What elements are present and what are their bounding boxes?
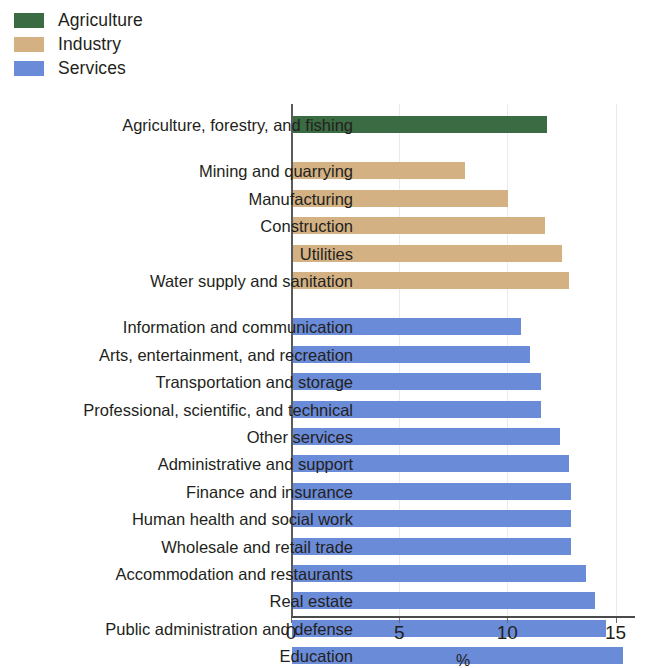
chart-legend: AgricultureIndustryServices — [14, 8, 254, 80]
category-label: Wholesale and retail trade — [63, 539, 353, 556]
legend-item-agriculture: Agriculture — [14, 8, 254, 32]
category-label: Mining and quarrying — [63, 163, 353, 180]
x-tick-label: 15 — [605, 622, 626, 644]
category-label: Agriculture, forestry, and fishing — [63, 117, 353, 134]
x-tick-label: 10 — [497, 622, 518, 644]
category-label: Other services — [63, 429, 353, 446]
category-label: Education — [63, 648, 353, 665]
legend-label: Agriculture — [58, 10, 143, 31]
category-label: Water supply and sanitation — [63, 273, 353, 290]
legend-item-services: Services — [14, 56, 254, 80]
legend-swatch-services — [14, 61, 44, 76]
legend-item-industry: Industry — [14, 32, 254, 56]
category-label: Arts, entertainment, and recreation — [63, 347, 353, 364]
gridline-15 — [616, 104, 617, 618]
category-label: Utilities — [63, 246, 353, 263]
category-label: Administrative and support — [63, 456, 353, 473]
legend-swatch-industry — [14, 37, 44, 52]
category-label: Manufacturing — [63, 191, 353, 208]
x-tick-label: 5 — [394, 622, 405, 644]
category-label: Construction — [63, 218, 353, 235]
category-label: Information and communication — [63, 319, 353, 336]
category-label: Real estate — [63, 593, 353, 610]
x-axis-line — [291, 616, 635, 618]
category-label: Public administration and defense — [63, 621, 353, 638]
category-label: Professional, scientific, and technical — [63, 402, 353, 419]
category-label: Accommodation and restaurants — [63, 566, 353, 583]
legend-swatch-agriculture — [14, 13, 44, 28]
legend-label: Industry — [58, 34, 121, 55]
category-label: Human health and social work — [63, 511, 353, 528]
x-axis-label: % — [456, 652, 470, 668]
category-label: Transportation and storage — [63, 374, 353, 391]
category-label: Finance and insurance — [63, 484, 353, 501]
legend-label: Services — [58, 58, 126, 79]
